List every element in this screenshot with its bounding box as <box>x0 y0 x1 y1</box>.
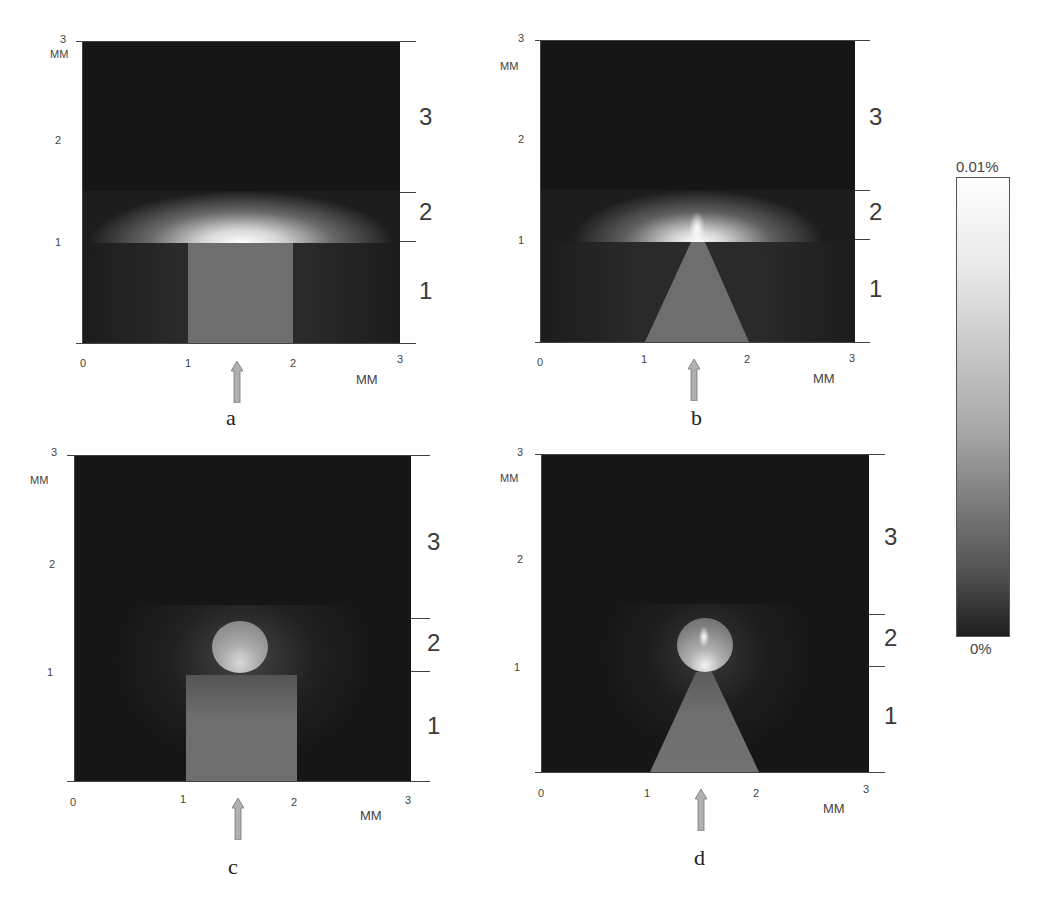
heatmap-c <box>75 455 411 781</box>
layer-label-1: 1 <box>869 275 882 303</box>
colorbar-min-label: 0% <box>970 640 992 657</box>
y-tick-3: 3 <box>518 32 524 44</box>
source-arrow-icon <box>231 361 243 403</box>
x-tick-1: 1 <box>641 353 647 365</box>
interface-tick-lower <box>869 666 885 667</box>
colorbar-gradient <box>956 177 1010 637</box>
source-beam <box>188 243 293 343</box>
layer2-glow <box>83 191 400 243</box>
source-beam <box>541 242 855 342</box>
x-tick-0: 0 <box>537 356 543 368</box>
top-axis <box>535 454 885 455</box>
x-tick-3: 3 <box>397 353 403 365</box>
x-tick-1: 1 <box>185 357 191 369</box>
x-tick-2: 2 <box>753 787 759 799</box>
source-arrow-icon <box>232 798 244 840</box>
x-unit-label: MM <box>360 808 382 823</box>
y-unit-label: MM <box>50 48 68 60</box>
y-tick-2: 2 <box>518 133 524 145</box>
layer-label-1: 1 <box>427 712 440 740</box>
source-arrow-icon <box>695 789 707 831</box>
layer-label-3: 3 <box>427 528 440 556</box>
y-unit-label: MM <box>30 474 48 486</box>
x-tick-0: 0 <box>70 796 76 808</box>
x-tick-2: 2 <box>744 353 750 365</box>
source-arrow-icon <box>688 359 700 401</box>
y-axis <box>540 40 541 342</box>
x-tick-3: 3 <box>405 794 411 806</box>
y-tick-1: 1 <box>47 666 53 678</box>
y-tick-3: 3 <box>60 33 66 45</box>
y-tick-1: 1 <box>518 234 524 246</box>
interface-tick-upper <box>411 618 430 619</box>
y-axis <box>541 454 542 772</box>
x-unit-label: MM <box>823 801 845 816</box>
x-tick-0: 0 <box>80 357 86 369</box>
x-tick-3: 3 <box>849 352 855 364</box>
source-beam <box>186 675 297 781</box>
y-tick-1: 1 <box>55 236 61 248</box>
x-axis <box>535 342 870 343</box>
focal-spot <box>689 212 705 240</box>
x-tick-2: 2 <box>290 357 296 369</box>
y-tick-2: 2 <box>55 134 61 146</box>
y-tick-2: 2 <box>517 553 523 565</box>
interface-tick-lower <box>400 241 416 242</box>
layer-label-1: 1 <box>884 702 897 730</box>
colorbar-max-label: 0.01% <box>956 158 999 175</box>
panel-caption: d <box>694 845 705 871</box>
y-axis <box>74 455 75 781</box>
top-axis <box>67 455 430 456</box>
x-tick-1: 1 <box>644 787 650 799</box>
x-unit-label: MM <box>813 371 835 386</box>
interface-tick-upper <box>400 192 416 193</box>
focal-spot <box>699 627 709 647</box>
interface-tick-upper <box>855 190 870 191</box>
x-axis <box>535 772 885 773</box>
layer-label-3: 3 <box>419 103 432 131</box>
layer-label-2: 2 <box>869 198 882 226</box>
layer-label-2: 2 <box>419 198 432 226</box>
interface-tick-upper <box>869 614 885 615</box>
x-axis <box>76 343 416 344</box>
source-beam <box>542 672 869 772</box>
heatmap-d <box>542 454 869 772</box>
y-tick-3: 3 <box>517 446 523 458</box>
panel-caption: a <box>226 405 236 431</box>
layer-label-3: 3 <box>869 103 882 131</box>
layer-label-2: 2 <box>427 629 440 657</box>
y-tick-2: 2 <box>49 558 55 570</box>
heatmap-a <box>83 41 400 343</box>
panel-caption: b <box>691 405 702 431</box>
y-unit-label: MM <box>500 60 518 72</box>
y-axis <box>82 41 83 343</box>
y-tick-3: 3 <box>51 446 57 458</box>
x-tick-0: 0 <box>538 787 544 799</box>
interface-tick-lower <box>855 239 870 240</box>
interface-tick-lower <box>411 671 430 672</box>
x-tick-1: 1 <box>180 793 186 805</box>
top-axis <box>535 40 870 41</box>
x-unit-label: MM <box>356 372 378 387</box>
y-tick-1: 1 <box>514 661 520 673</box>
heatmap-b <box>541 40 855 342</box>
layer-label-1: 1 <box>419 277 432 305</box>
x-tick-2: 2 <box>291 796 297 808</box>
top-axis <box>76 41 416 42</box>
layer-label-2: 2 <box>884 624 897 652</box>
x-tick-3: 3 <box>863 783 869 795</box>
inclusion-circle <box>212 621 268 673</box>
panel-caption: c <box>228 854 238 880</box>
layer-label-3: 3 <box>884 523 897 551</box>
x-axis <box>67 781 430 782</box>
y-unit-label: MM <box>500 472 518 484</box>
